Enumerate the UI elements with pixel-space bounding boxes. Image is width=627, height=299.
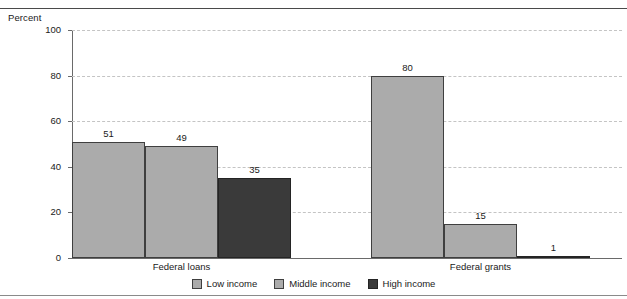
bar	[517, 256, 590, 258]
bar-value-label: 80	[371, 62, 444, 73]
legend-item-label: High income	[383, 278, 436, 289]
bar-value-label: 1	[517, 242, 590, 253]
legend-item-label: Low income	[207, 278, 258, 289]
y-axis-tick	[68, 258, 72, 259]
gridline	[72, 121, 622, 122]
y-axis-tick	[68, 76, 72, 77]
bar	[145, 146, 218, 258]
x-axis-group-label: Federal loans	[72, 261, 291, 272]
x-axis-line	[72, 258, 622, 259]
y-axis-title: Percent	[8, 12, 41, 23]
bar	[218, 178, 291, 258]
gridline	[72, 30, 622, 31]
bar-chart-figure: Percent Low incomeMiddle incomeHigh inco…	[0, 0, 627, 299]
dark-gray-swatch	[368, 279, 378, 289]
top-divider-rule	[0, 8, 627, 9]
legend-item: Low income	[192, 278, 258, 289]
y-axis-tick	[68, 121, 72, 122]
y-axis-tick-label: 60	[0, 115, 61, 126]
bar-value-label: 15	[444, 210, 517, 221]
gridline	[72, 76, 622, 77]
y-axis-tick-label: 0	[0, 252, 61, 263]
x-axis-group-label: Federal grants	[371, 261, 590, 272]
plot-area	[72, 30, 622, 258]
bar-value-label: 51	[72, 128, 145, 139]
legend-item: High income	[368, 278, 436, 289]
chart-legend: Low incomeMiddle incomeHigh income	[0, 278, 627, 289]
legend-item-label: Middle income	[289, 278, 350, 289]
light-gray-swatch	[192, 279, 202, 289]
bar-value-label: 35	[218, 164, 291, 175]
y-axis-tick-label: 100	[0, 24, 61, 35]
y-axis-tick-label: 80	[0, 70, 61, 81]
bar	[72, 142, 145, 258]
light-gray-swatch	[274, 279, 284, 289]
bar	[444, 224, 517, 258]
y-axis-tick-label: 20	[0, 206, 61, 217]
bar	[371, 76, 444, 258]
y-axis-tick	[68, 30, 72, 31]
y-axis-tick-label: 40	[0, 161, 61, 172]
bottom-divider-rule	[0, 295, 627, 296]
bar-value-label: 49	[145, 132, 218, 143]
legend-item: Middle income	[274, 278, 350, 289]
